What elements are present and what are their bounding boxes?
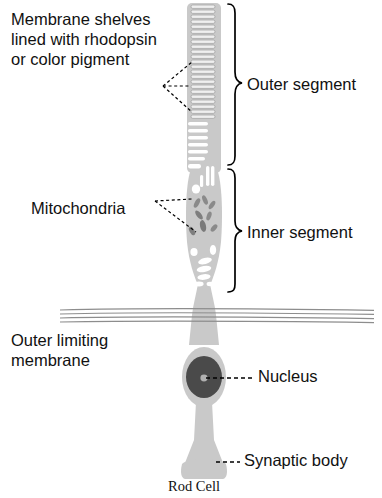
label-synaptic-body: Synaptic body — [244, 450, 348, 470]
label-inner-segment: Inner segment — [247, 222, 352, 242]
membrane-discs — [191, 5, 215, 118]
label-mitochondria: Mitochondria — [31, 198, 125, 218]
caption-rod-cell: Rod Cell — [168, 478, 220, 495]
synaptic-terminal-body — [181, 460, 227, 480]
rod-cell-diagram: Membrane shelves lined with rhodopsin or… — [0, 0, 382, 498]
label-outer-limiting-membrane: Outer limiting membrane — [11, 330, 108, 370]
brace-inner-segment — [228, 169, 242, 292]
brace-outer-segment — [228, 4, 242, 165]
cell-neck — [189, 284, 219, 345]
cell-body-shape — [181, 3, 227, 479]
label-nucleus: Nucleus — [258, 366, 318, 386]
membrane-disc-stack-upper — [191, 5, 215, 118]
outer-limiting-membrane-lines — [60, 309, 374, 323]
nucleus-group — [186, 356, 222, 398]
label-membrane-shelves: Membrane shelves lined with rhodopsin or… — [11, 9, 157, 69]
label-outer-segment: Outer segment — [247, 74, 356, 94]
